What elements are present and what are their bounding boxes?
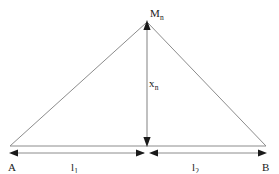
segment-right-label: l2 bbox=[192, 158, 199, 173]
segment-left-label-subscript: 1 bbox=[74, 167, 78, 174]
right-vertex-label-base: B bbox=[262, 161, 269, 173]
dimension-arrowhead-right-start-icon bbox=[149, 150, 158, 157]
right-vertex-label: B bbox=[262, 158, 269, 173]
apex-label: Mn bbox=[150, 4, 164, 20]
apex-label-base: M bbox=[150, 7, 160, 19]
left-vertex-label: A bbox=[8, 158, 16, 173]
height-label: xn bbox=[149, 74, 158, 90]
segment-left-label: l1 bbox=[71, 158, 78, 173]
geometry-figure: Mn xn A B l1 l2 bbox=[0, 0, 279, 173]
height-label-subscript: n bbox=[155, 83, 159, 92]
apex-label-subscript: n bbox=[160, 13, 164, 22]
height-label-base: x bbox=[149, 77, 155, 89]
dimension-arrowhead-left-end-icon bbox=[136, 150, 145, 157]
figure-canvas bbox=[0, 0, 279, 173]
segment-right-label-subscript: 2 bbox=[195, 167, 199, 174]
triangle-left-edge bbox=[10, 23, 146, 146]
dimension-arrowhead-right-end-icon bbox=[258, 150, 267, 157]
triangle-right-edge bbox=[148, 23, 266, 146]
left-vertex-label-base: A bbox=[8, 161, 16, 173]
dimension-arrowhead-left-start-icon bbox=[9, 150, 18, 157]
